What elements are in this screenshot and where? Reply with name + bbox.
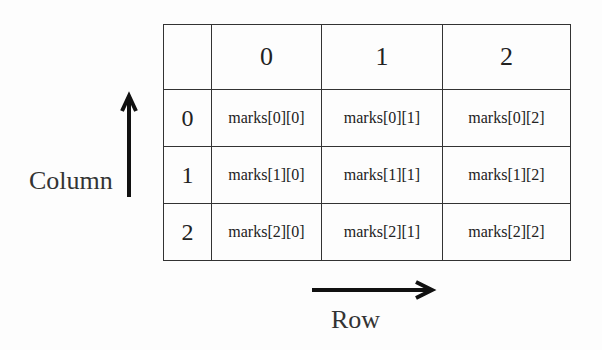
- grid-row: 2 marks[2][0] marks[2][1] marks[2][2]: [164, 204, 571, 261]
- array-cell: marks[2][1]: [322, 204, 443, 261]
- column-header: 1: [322, 25, 443, 90]
- array-cell: marks[0][0]: [212, 90, 322, 147]
- array-cell: marks[1][1]: [322, 147, 443, 204]
- row-index: 1: [164, 147, 212, 204]
- array-grid: 0 1 2 0 marks[0][0] marks[0][1] marks[0]…: [163, 24, 571, 261]
- header-row: 0 1 2: [164, 25, 571, 90]
- row-axis-label: Row: [331, 305, 380, 335]
- array-cell: marks[2][2]: [443, 204, 571, 261]
- arrow-right-icon: [310, 280, 436, 300]
- column-axis-label: Column: [29, 166, 113, 196]
- column-header: 2: [443, 25, 571, 90]
- array-cell: marks[0][1]: [322, 90, 443, 147]
- column-header: 0: [212, 25, 322, 90]
- row-index: 2: [164, 204, 212, 261]
- array-cell: marks[2][0]: [212, 204, 322, 261]
- array-cell: marks[0][2]: [443, 90, 571, 147]
- array-cell: marks[1][2]: [443, 147, 571, 204]
- row-index: 0: [164, 90, 212, 147]
- array-cell: marks[1][0]: [212, 147, 322, 204]
- grid-row: 1 marks[1][0] marks[1][1] marks[1][2]: [164, 147, 571, 204]
- arrow-up-icon: [119, 93, 139, 199]
- corner-cell: [164, 25, 212, 90]
- grid-row: 0 marks[0][0] marks[0][1] marks[0][2]: [164, 90, 571, 147]
